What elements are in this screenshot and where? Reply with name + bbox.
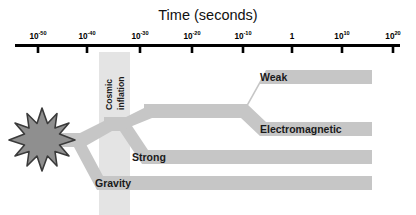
tick-label-7: 1020 — [385, 30, 400, 41]
label-strong: Strong — [132, 151, 166, 163]
time-axis — [15, 45, 400, 53]
tick-label-2: 10-30 — [131, 30, 148, 41]
tick-label-1: 10-40 — [78, 30, 95, 41]
force-unification-diagram: 10-50 10-40 10-30 10-20 10-10 1 1010 102… — [0, 0, 416, 215]
axis-tick-labels: 10-50 10-40 10-30 10-20 10-10 1 1010 102… — [29, 30, 400, 41]
big-bang-star — [9, 108, 75, 171]
star-icon — [9, 108, 75, 171]
cosmic-inflation-line2: inflation — [116, 77, 126, 110]
label-gravity: Gravity — [95, 177, 131, 189]
label-electromagnetic: Electromagnetic — [260, 123, 342, 135]
tick-label-6: 1010 — [334, 30, 349, 41]
cosmic-inflation-line1: Cosmic — [104, 79, 114, 110]
tick-label-5: 1 — [290, 32, 295, 41]
tick-label-0: 10-50 — [29, 30, 46, 41]
label-weak: Weak — [260, 71, 287, 83]
tick-label-3: 10-20 — [183, 30, 200, 41]
band-electroweak-run — [144, 104, 232, 118]
axis-title: Time (seconds) — [158, 7, 257, 23]
tick-label-4: 10-10 — [234, 30, 251, 41]
